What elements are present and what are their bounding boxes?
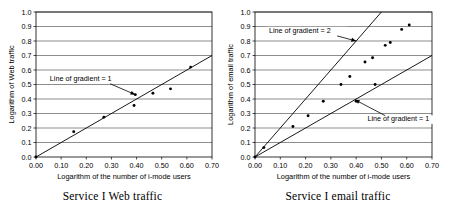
x-tick-label: 0.40: [130, 161, 144, 170]
y-tick-label: 0.2: [22, 124, 32, 133]
y-tick-label: 0.8: [22, 37, 32, 46]
annotation-text: Line of gradient = 1: [50, 74, 112, 83]
y-axis-title: Logarithm of Web traffic: [7, 45, 16, 123]
data-point: [384, 44, 387, 47]
y-tick-label: 0.6: [22, 66, 32, 75]
reference-line-gradient-1: [255, 56, 432, 158]
y-axis-title: Logarithm of email traffic: [226, 44, 235, 125]
y-tick-label: 0.7: [241, 51, 251, 60]
data-point: [102, 116, 105, 119]
data-point: [35, 156, 38, 159]
panel-email-traffic: 0.00.10.20.30.40.50.60.70.80.91.00.000.1…: [225, 0, 451, 214]
caption-email-traffic: Service I email traffic: [225, 190, 451, 202]
x-tick-label: 0.30: [104, 161, 118, 170]
data-point: [322, 100, 325, 103]
data-point: [348, 75, 351, 78]
data-point: [133, 104, 136, 107]
data-point: [364, 61, 367, 64]
x-tick-label: 0.30: [324, 161, 338, 170]
y-tick-label: 1.0: [22, 8, 32, 17]
data-point: [307, 114, 310, 117]
reference-line-gradient-1: [36, 56, 212, 158]
x-tick-label: 0.60: [400, 161, 414, 170]
x-tick-label: 0.20: [79, 161, 93, 170]
y-tick-label: 0.4: [22, 95, 32, 104]
y-tick-label: 0.3: [241, 109, 251, 118]
x-tick-label: 0.70: [425, 161, 439, 170]
chart-email-traffic: 0.00.10.20.30.40.50.60.70.80.91.00.000.1…: [225, 0, 451, 190]
chart-web-traffic: 0.00.10.20.30.40.50.60.70.80.91.00.000.1…: [0, 0, 225, 190]
data-point: [374, 83, 377, 86]
data-point: [189, 66, 192, 69]
data-point: [169, 87, 172, 90]
data-point: [262, 146, 265, 149]
caption-web-traffic: Service I Web traffic: [0, 190, 225, 202]
y-tick-label: 0.9: [22, 22, 32, 31]
x-tick-label: 0.50: [374, 161, 388, 170]
y-tick-label: 0.5: [241, 80, 251, 89]
data-point: [254, 156, 257, 159]
x-tick-label: 0.00: [29, 161, 43, 170]
x-tick-label: 0.70: [205, 161, 219, 170]
data-point: [408, 24, 411, 27]
y-tick-label: 1.0: [241, 8, 251, 17]
y-tick-label: 0.7: [22, 51, 32, 60]
data-point: [400, 28, 403, 31]
x-axis-title: Logarithm of the number of i-mode users: [57, 172, 191, 181]
panel-web-traffic: 0.00.10.20.30.40.50.60.70.80.91.00.000.1…: [0, 0, 225, 214]
y-tick-label: 0.2: [241, 124, 251, 133]
y-tick-label: 0.4: [241, 95, 251, 104]
annotation-text: Line of gradient = 2: [269, 26, 331, 35]
y-tick-label: 0.1: [22, 138, 32, 147]
x-tick-label: 0.50: [155, 161, 169, 170]
data-point: [291, 125, 294, 128]
x-tick-label: 0.00: [248, 161, 262, 170]
y-tick-label: 0.8: [241, 37, 251, 46]
x-tick-label: 0.10: [273, 161, 287, 170]
figure-two-scatter-plots: 0.00.10.20.30.40.50.60.70.80.91.00.000.1…: [0, 0, 451, 214]
x-tick-label: 0.20: [299, 161, 313, 170]
x-tick-label: 0.10: [54, 161, 68, 170]
y-tick-label: 0.9: [241, 22, 251, 31]
data-point: [72, 130, 75, 133]
x-tick-label: 0.40: [349, 161, 363, 170]
data-point: [371, 56, 374, 59]
x-axis-title: Logarithm of the number of i-mode users: [277, 172, 411, 181]
y-tick-label: 0.5: [22, 80, 32, 89]
y-tick-label: 0.6: [241, 66, 251, 75]
data-point: [389, 41, 392, 44]
x-tick-label: 0.60: [180, 161, 194, 170]
annotation-text: Line of gradient = 1: [368, 114, 430, 123]
y-tick-label: 0.1: [241, 138, 251, 147]
data-point: [340, 83, 343, 86]
data-point: [151, 92, 154, 95]
y-tick-label: 0.3: [22, 109, 32, 118]
